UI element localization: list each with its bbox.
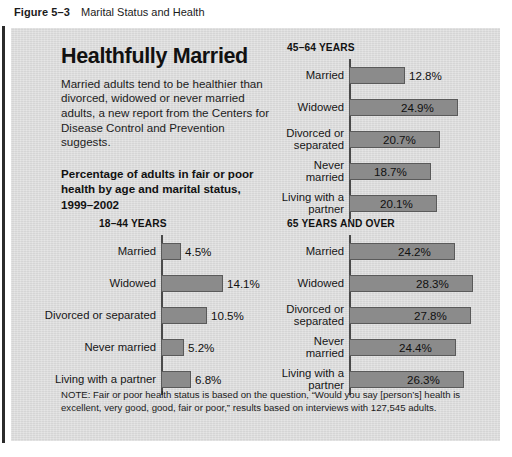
figure-number: Figure 5–3 bbox=[14, 6, 70, 18]
chart-bar-row: Widowed 24.9% bbox=[273, 91, 495, 123]
chart-title: 65 YEARS AND OVER bbox=[287, 218, 495, 229]
chart-title: 18–44 YEARS bbox=[99, 218, 267, 229]
chart-bar-row: Divorced or separated 20.7% bbox=[273, 123, 495, 155]
bar-category-label: Married bbox=[37, 245, 161, 257]
bar-value-label: 20.7% bbox=[383, 133, 416, 146]
bar-value-label: 20.1% bbox=[380, 197, 413, 210]
chart-subhead: Percentage of adults in fair or poor hea… bbox=[61, 166, 276, 212]
bar bbox=[161, 243, 181, 260]
bar-value-label: 24.2% bbox=[398, 245, 431, 258]
bar-category-label: Living with a partner bbox=[37, 373, 161, 385]
bar-category-label: Never married bbox=[273, 335, 349, 359]
bar-category-label: Never married bbox=[37, 341, 161, 353]
bar bbox=[349, 275, 473, 292]
bar bbox=[349, 67, 405, 84]
figure-note: NOTE: Fair or poor health status is base… bbox=[61, 389, 473, 415]
chart-plot-area: Married 24.2% Widowed 28.3% Divorced or … bbox=[273, 235, 495, 395]
chart-bar-row: Married 4.5% bbox=[37, 235, 267, 267]
bar-category-label: Married bbox=[273, 245, 349, 257]
chart-age-45-64: 45–64 YEARS Married 12.8% Widowed 24.9% bbox=[273, 42, 495, 219]
bar-value-label: 18.7% bbox=[374, 165, 407, 178]
figure-panel: Healthfully Married Married adults tend … bbox=[11, 28, 500, 441]
bar-value-label: 12.8% bbox=[409, 69, 442, 82]
lede-paragraph: Married adults tend to be healthier than… bbox=[61, 77, 276, 151]
chart-bar-row: Divorced or separated 10.5% bbox=[37, 299, 267, 331]
bar bbox=[161, 275, 223, 292]
chart-bar-row: Never married 5.2% bbox=[37, 331, 267, 363]
chart-bar-row: Never married 24.4% bbox=[273, 331, 495, 363]
bar-value-label: 4.5% bbox=[185, 245, 211, 258]
bar-category-label: Widowed bbox=[37, 277, 161, 289]
bar-value-label: 27.8% bbox=[414, 309, 447, 322]
bar-category-label: Married bbox=[273, 69, 349, 81]
bar-category-label: Widowed bbox=[273, 101, 349, 113]
bar-value-label: 26.3% bbox=[407, 373, 440, 386]
bar-value-label: 28.3% bbox=[416, 277, 449, 290]
bar bbox=[161, 371, 191, 388]
chart-bar-row: Married 24.2% bbox=[273, 235, 495, 267]
bar-category-label: Never married bbox=[273, 159, 349, 183]
bar-category-label: Divorced or separated bbox=[37, 309, 161, 321]
chart-bar-row: Never married 18.7% bbox=[273, 155, 495, 187]
bar-category-label: Living with a partner bbox=[273, 191, 349, 215]
chart-title: 45–64 YEARS bbox=[287, 42, 495, 53]
chart-plot-area: Married 12.8% Widowed 24.9% Divorced or … bbox=[273, 59, 495, 219]
bar-category-label: Widowed bbox=[273, 277, 349, 289]
chart-bar-row: Divorced or separated 27.8% bbox=[273, 299, 495, 331]
page-title: Healthfully Married bbox=[61, 45, 276, 68]
bar-value-label: 5.2% bbox=[188, 341, 214, 354]
chart-age-18-44: 18–44 YEARS Married 4.5% Widowed 14.1% bbox=[37, 218, 267, 395]
figure-caption: Figure 5–3Marital Status and Health bbox=[14, 6, 494, 18]
chart-bar-row: Living with a partner 20.1% bbox=[273, 187, 495, 219]
bar-value-label: 14.1% bbox=[227, 277, 260, 290]
page-gutter-rule bbox=[2, 26, 5, 443]
bar bbox=[161, 307, 207, 324]
bar bbox=[161, 339, 184, 356]
chart-bar-row: Widowed 14.1% bbox=[37, 267, 267, 299]
chart-plot-area: Married 4.5% Widowed 14.1% Divorced or s… bbox=[37, 235, 267, 395]
bar-value-label: 10.5% bbox=[211, 309, 244, 322]
bar-category-label: Living with a partner bbox=[273, 367, 349, 391]
headline-block: Healthfully Married Married adults tend … bbox=[61, 45, 276, 212]
bar-value-label: 24.4% bbox=[399, 341, 432, 354]
chart-age-65-over: 65 YEARS AND OVER Married 24.2% Widowed … bbox=[273, 218, 495, 395]
chart-bar-row: Married 12.8% bbox=[273, 59, 495, 91]
bar-value-label: 24.9% bbox=[401, 101, 434, 114]
bar bbox=[349, 307, 471, 324]
bar-value-label: 6.8% bbox=[195, 373, 221, 386]
bar-category-label: Divorced or separated bbox=[273, 303, 349, 327]
figure-title: Marital Status and Health bbox=[81, 6, 205, 18]
bar-category-label: Divorced or separated bbox=[273, 127, 349, 151]
chart-bar-row: Widowed 28.3% bbox=[273, 267, 495, 299]
